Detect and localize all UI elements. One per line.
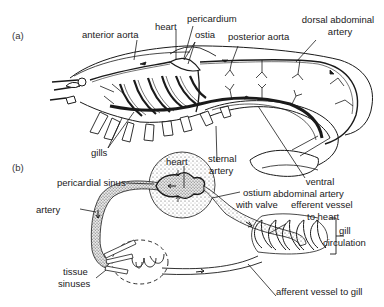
label-dorsal-abdominal-artery-line2: artery [314,27,366,37]
label-pericardium: pericardium [187,14,237,24]
label-gill-circulation-line2: circulation [323,238,366,248]
circulatory-system-figure: (a) (b) anterior aorta heart pericardium… [0,0,384,307]
label-tissue-sinuses-line2: sinuses [58,279,90,289]
label-sternal-artery-line2: artery [209,166,233,176]
label-efferent-vessel-line1: efferent vessel [291,200,353,210]
label-anterior-aorta: anterior aorta [82,30,139,40]
label-posterior-aorta: posterior aorta [228,32,289,42]
label-ventral-abdominal-artery-line1: ventral [292,177,348,187]
label-ostium-line1: ostium [243,188,271,198]
label-ventral-abdominal-artery-line2: abdominal artery [273,189,344,199]
label-heart-a: heart [155,22,177,32]
label-efferent-vessel-line2: to heart [307,212,339,222]
gill-circulation-bracket [330,218,344,254]
panel-a-tag: (a) [12,30,24,41]
label-sternal-artery-line1: sternal [208,154,237,164]
label-dorsal-abdominal-artery-line1: dorsal abdominal [290,15,384,25]
label-artery: artery [36,205,60,215]
label-tissue-sinuses-line1: tissue [63,267,88,277]
label-afferent-vessel: afferent vessel to gill [276,287,362,297]
label-ostium-line2: with valve [236,200,278,210]
label-gill-circulation-line1: gill [339,226,351,236]
label-pericardial-sinus: pericardial sinus [57,178,126,188]
label-gills: gills [91,148,107,158]
diagram-drawing [0,0,384,307]
tissue-sinuses [104,240,168,284]
label-ostia: ostia [195,30,215,40]
panel-b-tag: (b) [12,162,24,173]
arterial-vessel [91,181,160,268]
label-heart-b: heart [166,157,188,167]
